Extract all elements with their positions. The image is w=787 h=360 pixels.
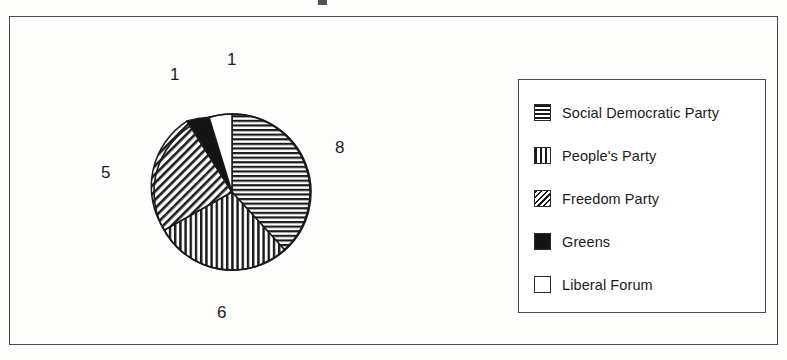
white-swatch-icon (534, 276, 551, 293)
figure-page: 8 6 5 1 1 Social Democratic Party People… (0, 0, 787, 360)
legend-item-peoples-party: People's Party (534, 134, 757, 177)
cropped-title-descender (318, 0, 327, 5)
figure-frame: 8 6 5 1 1 Social Democratic Party People… (9, 16, 778, 345)
legend-label-peoples-party: People's Party (562, 148, 656, 164)
legend-label-greens: Greens (562, 234, 610, 250)
legend-label-freedom-party: Freedom Party (562, 191, 659, 207)
vertical-hatch-swatch-icon (534, 147, 551, 164)
legend-item-freedom-party: Freedom Party (534, 177, 757, 220)
pie-chart: 8 6 5 1 1 (70, 37, 410, 337)
horizontal-hatch-swatch-icon (534, 104, 551, 121)
legend-item-greens: Greens (534, 220, 757, 263)
diagonal-hatch-swatch-icon (534, 190, 551, 207)
legend-list: Social Democratic Party People's Party F… (534, 91, 757, 304)
pie-label-greens: 1 (170, 66, 179, 83)
legend-label-social-democratic-party: Social Democratic Party (562, 105, 719, 121)
pie-label-social-democratic: 8 (335, 139, 344, 156)
legend-item-liberal-forum: Liberal Forum (534, 263, 757, 306)
pie-chart-svg (70, 37, 410, 337)
legend-box: Social Democratic Party People's Party F… (518, 79, 766, 313)
pie-label-freedom-party: 5 (101, 164, 110, 181)
pie-label-liberal-forum: 1 (227, 51, 236, 68)
legend-item-social-democratic-party: Social Democratic Party (534, 91, 757, 134)
solid-black-swatch-icon (534, 233, 551, 250)
legend-label-liberal-forum: Liberal Forum (562, 277, 653, 293)
pie-label-peoples-party: 6 (217, 304, 226, 321)
